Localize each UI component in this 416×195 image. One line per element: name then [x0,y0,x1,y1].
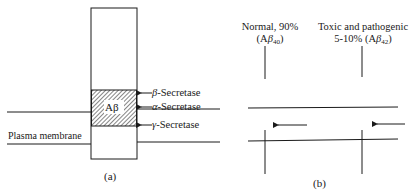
beta-secretase-text: -Secretase [157,87,200,98]
normal-suffix: ) [280,33,284,44]
beta-secretase-label: β-Secretase [152,87,200,99]
abeta-label-text: Aβ [105,101,119,113]
panel-b-caption: (b) [313,177,326,189]
plasma-membrane-label: Plasma membrane [8,130,82,142]
gamma-secretase-text: -Secretase [156,119,199,130]
membrane-lower-b [248,139,398,141]
app-protein-box [91,8,137,159]
plasma-membrane-text: Plasma membrane [8,130,82,141]
alpha-secretase-label: α-Secretase [152,101,201,113]
toxic-product-line1: Toxic and pathogenic [311,21,415,33]
panel-a-caption: (a) [104,170,116,182]
toxic-product-label: Toxic and pathogenic 5-10% (Aβ42) [311,21,415,45]
normal-prefix: (A [257,33,268,44]
panel-b-caption-text: (b) [313,177,326,189]
alpha-secretase-text: -Secretase [158,101,201,112]
normal-product-label: Normal, 90% (Aβ40) [230,21,310,45]
toxic-product-line2: 5-10% (Aβ42) [311,33,415,45]
toxic-suffix: ) [388,33,392,44]
normal-subscript: 40 [273,38,280,46]
normal-product-line2: (Aβ40) [230,33,310,45]
normal-product-line1: Normal, 90% [230,21,310,33]
abeta-label: Aβ [105,101,119,113]
panel-a-caption-text: (a) [104,170,116,182]
membrane-upper-b [248,107,398,108]
panel-b [248,46,405,174]
toxic-prefix: 5-10% (A [334,33,376,44]
gamma-secretase-label: γ-Secretase [152,119,199,131]
